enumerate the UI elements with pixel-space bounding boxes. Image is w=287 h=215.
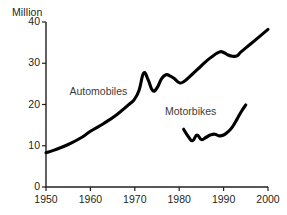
y-tick-label: 10 [12, 139, 40, 151]
series-label-automobiles: Automobiles [70, 85, 128, 97]
x-tick-label: 1970 [115, 193, 155, 205]
axis-lines [46, 22, 268, 187]
x-tick-label: 1980 [159, 193, 199, 205]
series-label-motorbikes: Motorbikes [165, 105, 216, 117]
y-tick-label: 40 [12, 15, 40, 27]
y-tick-label: 20 [12, 98, 40, 110]
axes-group [42, 22, 268, 191]
x-tick-label: 1950 [26, 193, 66, 205]
chart-container: Million 010203040 1950196019701980199020… [0, 0, 287, 215]
y-tick-label: 30 [12, 56, 40, 68]
x-tick-label: 1960 [70, 193, 110, 205]
x-tick-label: 2000 [248, 193, 287, 205]
x-tick-label: 1990 [204, 193, 244, 205]
y-tick-label: 0 [12, 180, 40, 192]
chart-plot-area [0, 0, 287, 215]
